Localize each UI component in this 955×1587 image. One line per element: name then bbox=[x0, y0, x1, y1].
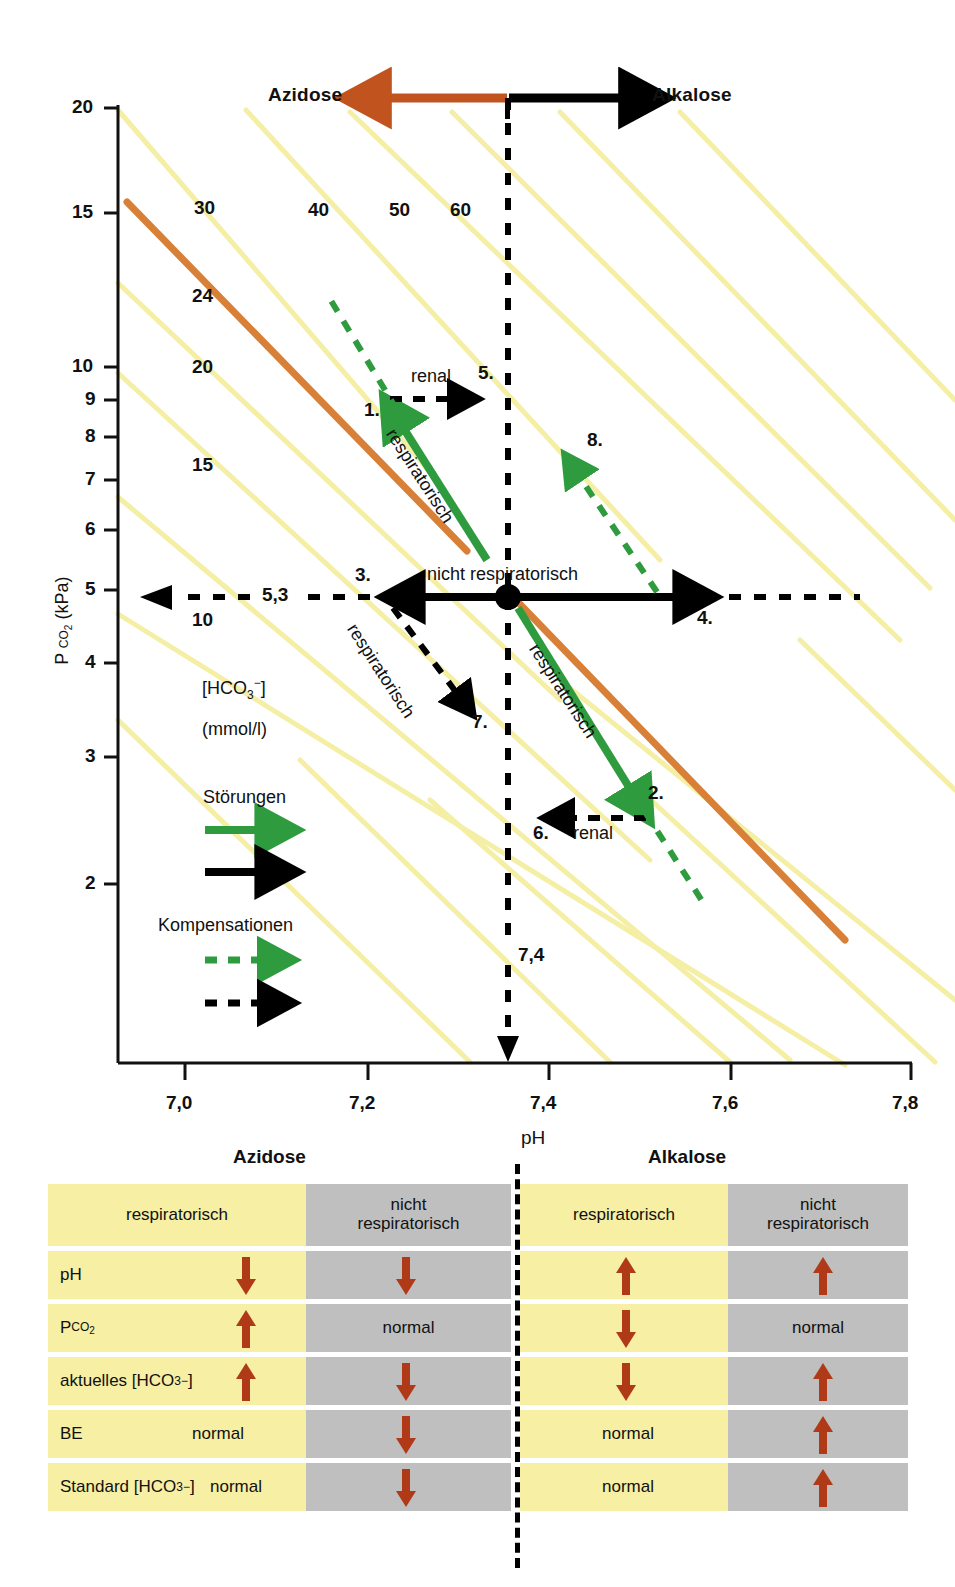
legend-compensations-title: Kompensationen bbox=[158, 916, 293, 935]
row-label-aktuelles-hco3: aktuelles [HCO3−] bbox=[60, 1357, 193, 1405]
isobar-label-60: 60 bbox=[450, 200, 471, 220]
isobar-label-10: 10 bbox=[192, 610, 213, 630]
legend-disturbances-title: Störungen bbox=[203, 788, 286, 807]
isobar-label-40: 40 bbox=[308, 200, 329, 220]
table-row: BE normal normal bbox=[48, 1410, 908, 1458]
header-alkalosis-nonresp-l2: respiratorisch bbox=[767, 1214, 869, 1233]
x-tick-76: 7,6 bbox=[712, 1093, 738, 1113]
x-axis-ticks bbox=[185, 1063, 911, 1080]
x-tick-72: 7,2 bbox=[349, 1093, 375, 1113]
row-std-normal-acidosis: normal bbox=[176, 1463, 296, 1511]
marker-1: 1. bbox=[364, 400, 380, 420]
hco3-unit-caption: [HCO3−] (mmol/l) bbox=[182, 658, 267, 758]
label-non-respiratory: nicht respiratorisch bbox=[427, 565, 578, 584]
y-tick-8: 8 bbox=[85, 426, 96, 446]
row-be-normal-acidosis: normal bbox=[158, 1410, 278, 1458]
marker-3: 3. bbox=[355, 565, 371, 585]
y-tick-2: 2 bbox=[85, 873, 96, 893]
header-alkalosis-respiratory: respiratorisch bbox=[520, 1184, 728, 1246]
marker-8: 8. bbox=[587, 430, 603, 450]
header-alkalosis-nonresp-l1: nicht bbox=[800, 1195, 836, 1214]
table-caption-alkalosis: Alkalose bbox=[648, 1146, 726, 1168]
pco2-reference-label: 5,3 bbox=[262, 585, 288, 605]
row-pco2-arrows bbox=[48, 1304, 908, 1352]
table-caption-acidosis: Azidose bbox=[233, 1146, 306, 1168]
table-row: pH bbox=[48, 1251, 908, 1299]
row-label-pco2: P CO2 bbox=[60, 1304, 95, 1352]
acidosis-heading: Azidose bbox=[268, 85, 342, 105]
arrow-8-respiratory-compensation bbox=[575, 470, 657, 592]
row-ph-arrows bbox=[48, 1251, 908, 1299]
y-tick-7: 7 bbox=[85, 469, 96, 489]
header-acidosis-respiratory: respiratorisch bbox=[48, 1184, 306, 1246]
y-tick-15: 15 bbox=[72, 202, 93, 222]
row-std-normal-alkalosis: normal bbox=[568, 1463, 688, 1511]
marker-7: 7. bbox=[472, 712, 488, 732]
table-column-header-row: respiratorisch nicht respiratorisch resp… bbox=[48, 1184, 908, 1246]
y-tick-10: 10 bbox=[72, 356, 93, 376]
row-label-be: BE bbox=[60, 1410, 83, 1458]
y-tick-6: 6 bbox=[85, 519, 96, 539]
x-tick-70: 7,0 bbox=[166, 1093, 192, 1113]
x-tick-74: 7,4 bbox=[530, 1093, 556, 1113]
row-label-ph: pH bbox=[60, 1251, 82, 1299]
marker-5: 5. bbox=[478, 363, 494, 383]
marker-2: 2. bbox=[648, 783, 664, 803]
isobar-label-20: 20 bbox=[192, 357, 213, 377]
label-renal-upper: renal bbox=[411, 367, 451, 386]
header-alkalosis-nonrespiratory: nicht respiratorisch bbox=[728, 1184, 908, 1246]
header-acidosis-nonresp-l2: respiratorisch bbox=[357, 1214, 459, 1233]
isobar-label-50: 50 bbox=[389, 200, 410, 220]
y-tick-9: 9 bbox=[85, 389, 96, 409]
marker-6: 6. bbox=[533, 823, 549, 843]
table-row: normal normal P CO2 bbox=[48, 1304, 908, 1352]
compensation-line-lower-right bbox=[645, 812, 706, 907]
header-acidosis-nonrespiratory: nicht respiratorisch bbox=[306, 1184, 511, 1246]
table-row: Standard [HCO3−] normal normal bbox=[48, 1463, 908, 1511]
y-tick-3: 3 bbox=[85, 746, 96, 766]
alkalosis-heading: Alkalose bbox=[652, 85, 732, 105]
table-header-captions: Azidose Alkalose bbox=[48, 1138, 908, 1184]
marker-4: 4. bbox=[697, 608, 713, 628]
isobar-label-15: 15 bbox=[192, 455, 213, 475]
x-tick-78: 7,8 bbox=[892, 1093, 918, 1113]
isobar-label-30: 30 bbox=[194, 198, 215, 218]
ph-reference-label: 7,4 bbox=[518, 945, 544, 965]
label-renal-lower: renal bbox=[573, 824, 613, 843]
row-be-normal-alkalosis: normal bbox=[568, 1410, 688, 1458]
hco3-unit-line2: (mmol/l) bbox=[202, 719, 267, 739]
header-acidosis-nonresp-l1: nicht bbox=[391, 1195, 427, 1214]
y-axis-title: P CO2 (kPa) bbox=[52, 536, 73, 706]
row-label-standard-hco3: Standard [HCO3−] bbox=[60, 1463, 195, 1511]
y-tick-20: 20 bbox=[72, 97, 93, 117]
summary-table: Azidose Alkalose respiratorisch nicht re… bbox=[48, 1138, 908, 1516]
y-tick-5: 5 bbox=[85, 579, 96, 599]
y-tick-4: 4 bbox=[85, 652, 96, 672]
normal-value-point bbox=[495, 584, 521, 610]
isobar-label-24: 24 bbox=[192, 286, 213, 306]
table-divider-dashed bbox=[515, 1164, 520, 1568]
acid-base-nomogram-figure: Azidose Alkalose 20 15 10 9 8 7 6 5 4 3 … bbox=[0, 0, 955, 1587]
table-row: aktuelles [HCO3−] bbox=[48, 1357, 908, 1405]
